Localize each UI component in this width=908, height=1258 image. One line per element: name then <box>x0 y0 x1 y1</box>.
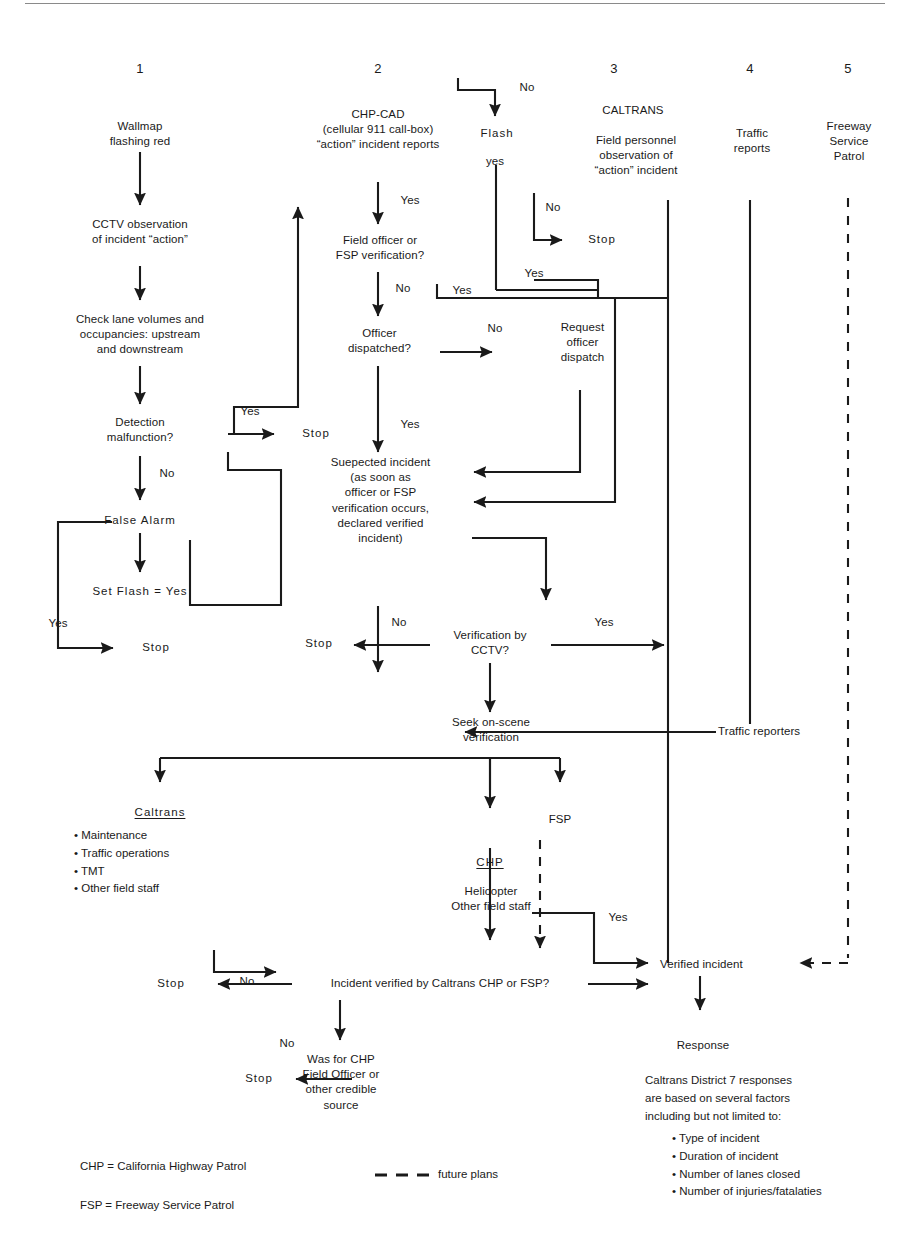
node-incident-verified-question: Incident verified by Caltrans CHP or FSP… <box>290 976 590 991</box>
column-number-2: 2 <box>348 60 408 77</box>
node-verification-by-cctv: Verification by CCTV? <box>425 628 555 658</box>
column-number-3: 3 <box>584 60 644 77</box>
node-traffic-reporters: Traffic reporters <box>718 724 838 739</box>
node-field-officer-verification: Field officer or FSP verification? <box>310 233 450 263</box>
node-was-for-chp: Was for CHP Field Officer or other credi… <box>282 1052 400 1113</box>
node-stop-detection-yes: Stop <box>286 426 346 441</box>
node-stop-cctv-no: Stop <box>290 636 348 651</box>
node-verified-incident: Verified incident <box>660 957 774 972</box>
node-wallmap: Wallmap flashing red <box>70 119 210 149</box>
node-check-lane-volumes: Check lane volumes and occupancies: upst… <box>40 312 240 358</box>
column-number-5: 5 <box>818 60 878 77</box>
node-detection-malfunction: Detection malfunction? <box>75 415 205 445</box>
edge-label-no-was-for-chp: No <box>272 1036 302 1051</box>
flowchart-page: 1 2 3 4 5 Wallmap flashing red CCTV obse… <box>0 0 908 1258</box>
edge-label-yes-cad-to-caltrans: Yes <box>444 283 480 298</box>
node-caltrans-header: CALTRANS <box>574 103 692 118</box>
edge-label-yes-officer-dispatched: Yes <box>392 417 428 432</box>
node-fsp-branch-title: FSP <box>532 812 588 827</box>
edge-label-yes-false-alarm: Yes <box>40 616 76 631</box>
edge-label-no-field-personnel: No <box>538 200 568 215</box>
edge-label-yes-cctv: Yes <box>586 615 622 630</box>
node-chp-cad-header: CHP-CAD (cellular 911 call-box) “action”… <box>278 107 478 153</box>
node-response: Response <box>664 1038 742 1053</box>
node-field-personnel-observation: Field personnel observation of “action” … <box>566 133 706 179</box>
note-district7-bullets: • Type of incident • Duration of inciden… <box>672 1130 902 1201</box>
edge-label-no-detection: No <box>152 466 182 481</box>
node-stop-flash-no: Stop <box>572 232 632 247</box>
node-false-alarm: False Alarm <box>80 513 200 528</box>
node-freeway-service-patrol: Freeway Service Patrol <box>808 119 890 165</box>
column-number-1: 1 <box>110 60 170 77</box>
node-seek-onscene-verification: Seek on-scene verification <box>422 715 560 745</box>
node-traffic-reports: Traffic reports <box>716 126 788 156</box>
edge-label-yes-chp-cad: Yes <box>392 193 428 208</box>
node-chp-branch-items: Helicopter Other field staff <box>420 884 562 914</box>
node-chp-branch-title: CHP <box>450 855 530 870</box>
node-stop-incident-no: Stop <box>140 976 202 991</box>
node-suspected-incident: Suepected incident (as soon as officer o… <box>298 455 463 546</box>
edge-label-yes-chp-to-verified: Yes <box>600 910 636 925</box>
edge-label-no-field-officer: No <box>388 281 418 296</box>
legend-future-plans-label: future plans <box>438 1168 498 1180</box>
node-stop-was-for-chp-no: Stop <box>228 1071 290 1086</box>
node-officer-dispatched: Officer dispatched? <box>322 326 437 356</box>
legend-chp: CHP = California Highway Patrol <box>80 1160 246 1172</box>
node-caltrans-branch-title: Caltrans <box>102 805 218 820</box>
edge-label-yes-detection: Yes <box>232 404 268 419</box>
node-stop-false-alarm: Stop <box>126 640 186 655</box>
edge-label-no-cctv: No <box>384 615 414 630</box>
edge-label-no-flash: No <box>512 80 542 95</box>
edge-label-yes-field-personnel: Yes <box>516 266 552 281</box>
node-caltrans-branch-items: • Maintenance • Traffic operations • TMT… <box>74 827 254 898</box>
note-district7-intro: Caltrans District 7 responses are based … <box>645 1072 885 1125</box>
node-flash: Flash <box>462 126 532 141</box>
column-number-4: 4 <box>720 60 780 77</box>
node-request-officer-dispatch: Request officer dispatch <box>530 320 635 366</box>
node-set-flash-yes: Set Flash = Yes <box>70 584 210 599</box>
edge-label-no-incident-verified: No <box>232 974 262 989</box>
edge-label-no-officer-dispatched: No <box>480 321 510 336</box>
top-horizontal-rule <box>25 3 885 4</box>
legend-fsp: FSP = Freeway Service Patrol <box>80 1199 234 1211</box>
edge-label-yes-flash: yes <box>478 154 512 169</box>
node-cctv-observation: CCTV observation of incident “action” <box>55 217 225 247</box>
